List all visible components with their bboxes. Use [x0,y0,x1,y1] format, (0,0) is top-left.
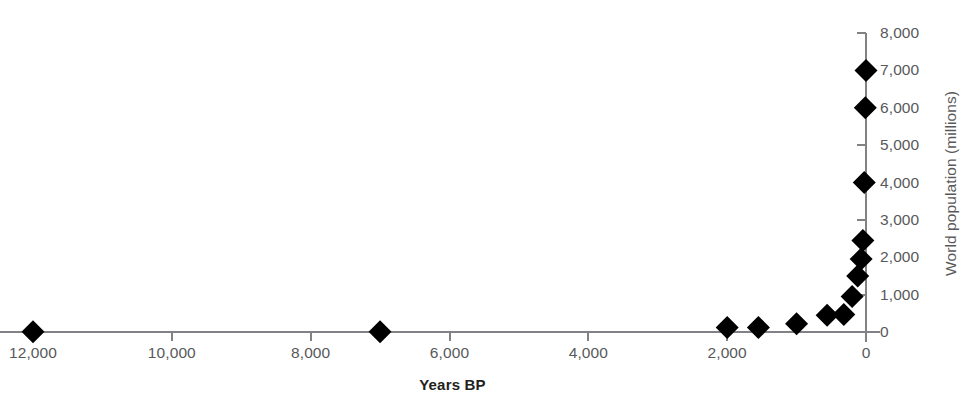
data-point-marker [716,316,739,339]
data-point-marker [855,59,878,82]
y-tick-label: 8,000 [880,24,919,42]
x-tick-label: 4,000 [569,344,608,362]
y-tick-label: 4,000 [880,174,919,192]
data-markers [22,59,878,343]
y-axis-title: World population (millions) [942,90,960,275]
x-tick-label: 2,000 [708,344,747,362]
y-tick-label: 3,000 [880,211,919,229]
y-tick-label: 5,000 [880,136,919,154]
x-tick-label: 8,000 [291,344,330,362]
data-point-marker [851,229,874,252]
y-tick-label: 7,000 [880,61,919,79]
y-tick-label: 1,000 [880,286,919,304]
data-point-marker [22,320,45,343]
tick-marks [33,33,866,341]
x-tick-label: 6,000 [430,344,469,362]
data-point-marker [850,248,873,271]
data-point-marker [747,316,770,339]
data-point-marker [369,320,392,343]
y-tick-label: 6,000 [880,99,919,117]
y-tick-label: 2,000 [880,248,919,266]
x-tick-label: 0 [862,344,871,362]
x-tick-label: 12,000 [9,344,57,362]
data-point-marker [854,96,877,119]
y-tick-label: 0 [880,323,889,341]
axis-lines [0,33,880,342]
x-tick-label: 10,000 [148,344,196,362]
plot-area [0,0,964,407]
x-axis-title: Years BP [419,376,486,393]
world-population-chart: 12,00010,0008,0006,0004,0002,000001,0002… [0,0,964,407]
data-point-marker [853,171,876,194]
